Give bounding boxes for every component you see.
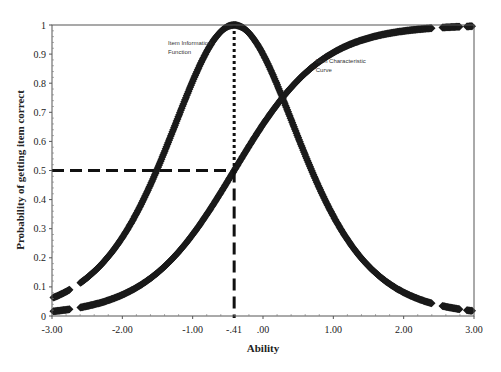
y-axis: 00.10.20.30.40.50.60.70.80.91	[34, 20, 55, 322]
y-axis-title: Probability of getting item correct	[14, 90, 26, 250]
y-tick-label: 1	[41, 20, 46, 31]
x-tick-label: .00	[257, 324, 270, 335]
curve-label: Item Characteristic	[316, 58, 366, 64]
x-tick-label: 3.00	[465, 324, 483, 335]
y-tick-label: 0.6	[34, 136, 47, 147]
curve-label: Item Information	[168, 40, 211, 46]
x-axis: -3.00-2.00-1.00.001.002.003.00	[42, 314, 483, 335]
data-markers	[49, 21, 476, 315]
reference-lines	[52, 25, 234, 318]
x-tick-label: -3.00	[42, 324, 63, 335]
irt-chart: 00.10.20.30.40.50.60.70.80.91 -3.00-2.00…	[0, 0, 501, 372]
y-tick-label: 0	[41, 311, 46, 322]
y-tick-label: 0.9	[34, 49, 47, 60]
y-tick-label: 0.7	[34, 107, 47, 118]
y-tick-label: 0.4	[34, 194, 47, 205]
x-tick-label: 1.00	[325, 324, 343, 335]
y-tick-label: 0.1	[34, 281, 47, 292]
y-tick-label: 0.2	[34, 252, 47, 263]
x-axis-title: Ability	[247, 342, 280, 354]
x-tick-label: -2.00	[112, 324, 133, 335]
y-tick-label: 0.8	[34, 78, 47, 89]
y-tick-label: 0.5	[34, 165, 47, 176]
curve-label: Curve	[316, 67, 333, 73]
difficulty-label: -.41	[226, 324, 242, 335]
curve-label: Function	[168, 49, 191, 55]
x-tick-label: 2.00	[395, 324, 413, 335]
y-tick-label: 0.3	[34, 223, 47, 234]
x-tick-label: -1.00	[182, 324, 203, 335]
